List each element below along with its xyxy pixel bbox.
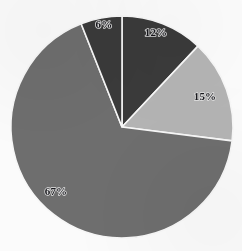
pie-slice-label-0: 12%: [145, 26, 168, 38]
pie-chart-canvas: 12% 15% 67% 6%: [0, 0, 242, 251]
pie-slice-label-1: 15%: [194, 90, 217, 102]
pie-chart-figure: 12% 15% 67% 6%: [0, 0, 242, 251]
pie-slice-label-2: 67%: [45, 185, 68, 197]
pie-slices-group: [11, 16, 233, 238]
pie-slice-label-3: 6%: [96, 18, 113, 30]
